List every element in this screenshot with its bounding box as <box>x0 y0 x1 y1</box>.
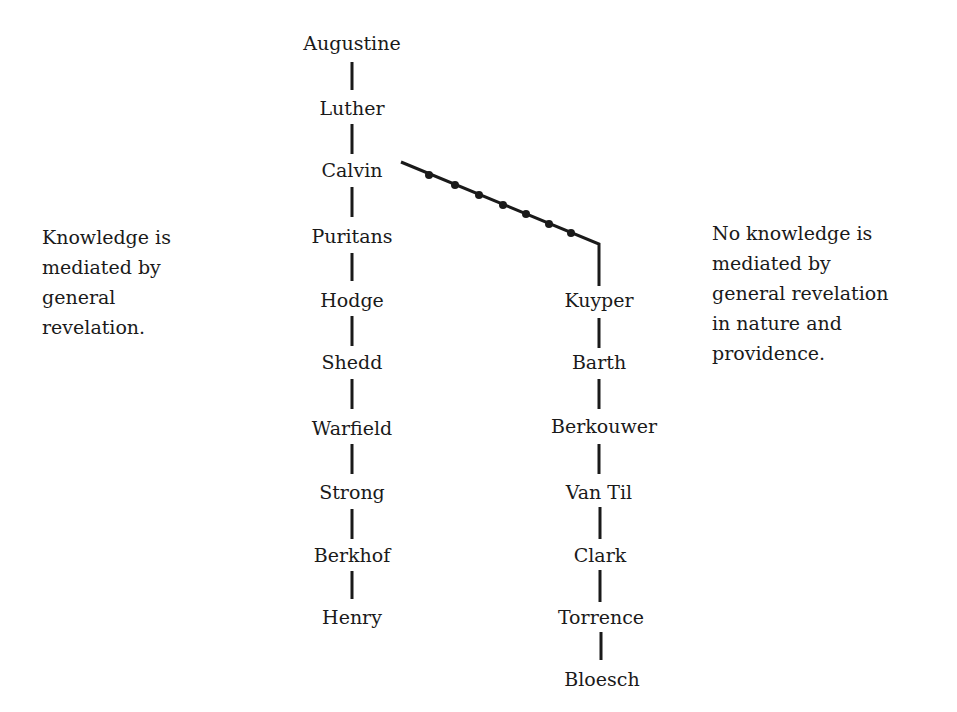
node-clark: Clark <box>574 543 627 567</box>
node-berkouwer: Berkouwer <box>551 414 657 438</box>
connector-line <box>600 632 603 660</box>
node-barth: Barth <box>572 350 626 374</box>
connector-line <box>598 318 601 348</box>
connector-line <box>599 570 602 602</box>
node-van-til: Van Til <box>566 480 632 504</box>
left-caption: Knowledge is mediated by general revelat… <box>42 222 171 342</box>
node-bloesch: Bloesch <box>564 667 639 691</box>
node-kuyper: Kuyper <box>564 288 633 312</box>
right-caption: No knowledge is mediated by general reve… <box>712 218 889 368</box>
connector-line <box>599 507 602 539</box>
connector-line <box>598 379 601 409</box>
node-torrence: Torrence <box>558 605 644 629</box>
connector-line <box>598 444 601 474</box>
